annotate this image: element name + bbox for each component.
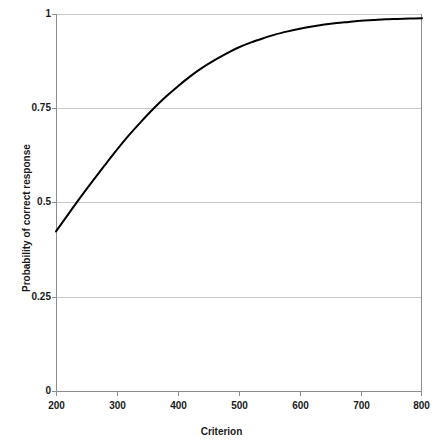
x-tick-label-400: 400 <box>158 401 199 411</box>
chart-figure: 1 0.75 0.5 0.25 0 200 300 400 500 600 70… <box>0 0 443 447</box>
y-tick-label-1: 1 <box>45 9 51 19</box>
y-tick-label-05: 0.5 <box>37 197 51 207</box>
x-tick-label-600: 600 <box>280 401 321 411</box>
chart-plot-area <box>0 0 443 447</box>
x-tick-label-800: 800 <box>401 401 442 411</box>
y-tick-label-025: 0.25 <box>32 292 51 302</box>
y-tick-label-075: 0.75 <box>32 103 51 113</box>
x-tick-label-200: 200 <box>36 401 77 411</box>
x-axis-title: Criterion <box>0 426 443 437</box>
y-tick-label-0: 0 <box>45 386 51 396</box>
data-series-line <box>56 18 422 231</box>
x-tick-label-500: 500 <box>219 401 260 411</box>
y-tick-marks <box>52 15 56 392</box>
y-axis-title: Probability of correct response <box>22 144 32 292</box>
x-tick-marks <box>57 392 422 396</box>
x-tick-label-700: 700 <box>341 401 382 411</box>
x-tick-label-300: 300 <box>97 401 138 411</box>
